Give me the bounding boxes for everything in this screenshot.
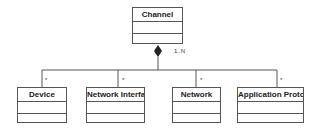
class-attributes <box>238 102 303 114</box>
class-application-protocol: Application Protocol <box>237 87 304 123</box>
class-operations <box>87 114 144 124</box>
composition-diamond-icon <box>154 45 162 57</box>
class-channel: Channel <box>132 7 183 44</box>
multiplicity-label: * <box>45 77 47 83</box>
multiplicity-label: * <box>200 77 202 83</box>
class-network-interface: Network Interface <box>86 87 145 123</box>
class-network: Network <box>172 87 221 123</box>
multiplicity-label: * <box>122 77 124 83</box>
class-attributes <box>173 102 220 114</box>
multiplicity-label: * <box>280 77 282 83</box>
class-attributes <box>18 102 66 114</box>
multiplicity-label: 1..N <box>174 48 185 54</box>
class-attributes <box>87 102 144 114</box>
class-name: Channel <box>133 8 182 22</box>
class-name: Application Protocol <box>238 88 303 102</box>
class-name: Network <box>173 88 220 102</box>
class-attributes <box>133 22 182 34</box>
class-device: Device <box>17 87 67 123</box>
class-operations <box>173 114 220 124</box>
class-name: Device <box>18 88 66 102</box>
class-name: Network Interface <box>87 88 144 102</box>
class-operations <box>18 114 66 124</box>
class-operations <box>133 34 182 44</box>
class-operations <box>238 114 303 124</box>
